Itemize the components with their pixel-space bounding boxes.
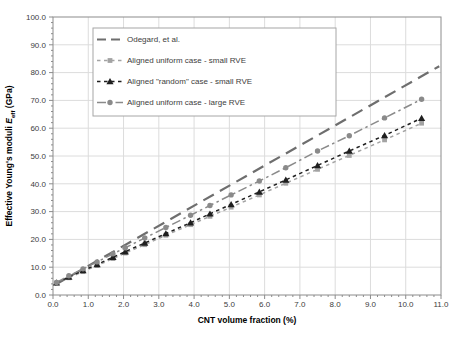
circle-marker xyxy=(347,133,352,138)
legend-label: Aligned "random" case - small RVE xyxy=(127,77,252,86)
circle-marker xyxy=(419,97,424,102)
triangle-marker xyxy=(418,115,425,121)
legend-label: Odegard, et al. xyxy=(127,35,180,44)
circle-marker xyxy=(188,213,193,218)
circle-marker xyxy=(66,273,71,278)
legend-label: Aligned uniform case - small RVE xyxy=(127,56,246,65)
x-tick-label: 8.0 xyxy=(330,300,342,309)
circle-marker xyxy=(110,251,115,256)
x-tick-label: 4.0 xyxy=(189,300,201,309)
y-tick-label: 20.0 xyxy=(30,235,46,244)
x-tick-label: 10.0 xyxy=(398,300,414,309)
legend-label: Aligned uniform case - large RVE xyxy=(127,98,245,107)
y-tick-labels: 0.010.020.030.040.050.060.070.080.090.01… xyxy=(26,13,47,300)
y-tick-label: 90.0 xyxy=(30,41,46,50)
circle-marker xyxy=(142,235,147,240)
y-axis-title-subscript: eff xyxy=(9,111,16,118)
y-tick-label: 30.0 xyxy=(30,207,46,216)
triangle-marker xyxy=(187,219,194,225)
y-tick-label: 40.0 xyxy=(30,180,46,189)
y-tick-label: 80.0 xyxy=(30,68,46,77)
circle-marker xyxy=(54,280,59,285)
triangle-marker xyxy=(381,132,388,138)
x-tick-label: 1.0 xyxy=(83,300,95,309)
x-tick-label: 9.0 xyxy=(365,300,377,309)
circle-marker xyxy=(80,266,85,271)
triangle-marker xyxy=(256,188,263,194)
x-tick-label: 2.0 xyxy=(118,300,130,309)
square-marker xyxy=(419,121,424,126)
y-tick-label: 10.0 xyxy=(30,263,46,272)
x-axis-title: CNT volume fraction (%) xyxy=(53,315,441,325)
triangle-marker xyxy=(314,162,321,168)
y-axis-title-symbol: E xyxy=(4,118,14,124)
y-axis-title: Effective Young's moduli Eeff (GPa) xyxy=(1,6,17,306)
y-tick-label: 70.0 xyxy=(30,96,46,105)
circle-marker xyxy=(94,259,99,264)
circle-marker xyxy=(107,100,112,105)
legend: Odegard, et al.Aligned uniform case - sm… xyxy=(93,28,336,116)
x-tick-label: 0.0 xyxy=(47,300,59,309)
triangle-marker xyxy=(282,177,289,183)
circle-marker xyxy=(257,178,262,183)
x-tick-label: 6.0 xyxy=(259,300,271,309)
x-tick-label: 7.0 xyxy=(294,300,306,309)
chart-canvas: 0.01.02.03.04.05.06.07.08.09.010.011.00.… xyxy=(0,0,464,338)
series-1 xyxy=(54,121,424,286)
y-tick-label: 100.0 xyxy=(26,13,47,22)
square-marker xyxy=(108,58,113,63)
y-axis-title-prefix: Effective Young's moduli xyxy=(4,124,14,227)
circle-marker xyxy=(228,192,233,197)
circle-marker xyxy=(283,165,288,170)
triangle-marker xyxy=(228,201,235,207)
y-tick-label: 0.0 xyxy=(35,291,47,300)
circle-marker xyxy=(315,148,320,153)
x-tick-label: 5.0 xyxy=(224,300,236,309)
y-tick-label: 60.0 xyxy=(30,124,46,133)
y-tick-label: 50.0 xyxy=(30,152,46,161)
x-tick-label: 11.0 xyxy=(434,300,450,309)
circle-marker xyxy=(207,203,212,208)
x-tick-labels: 0.01.02.03.04.05.06.07.08.09.010.011.0 xyxy=(47,300,449,309)
y-axis-title-suffix: (GPa) xyxy=(4,86,14,111)
chart-figure: 0.01.02.03.04.05.06.07.08.09.010.011.00.… xyxy=(0,0,464,338)
circle-marker xyxy=(163,225,168,230)
circle-marker xyxy=(382,115,387,120)
x-tick-label: 3.0 xyxy=(153,300,165,309)
circle-marker xyxy=(123,245,128,250)
series-3 xyxy=(54,97,424,286)
